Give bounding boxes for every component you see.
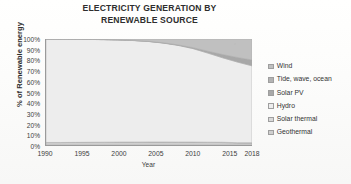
chart-title-line-1: ELECTRICITY GENERATION BY: [42, 3, 257, 15]
legend-item[interactable]: Wind: [268, 60, 350, 73]
legend-item-label: Solar thermal: [277, 116, 317, 123]
x-tick-label: 2010: [185, 150, 200, 157]
legend-item[interactable]: Solar PV: [268, 86, 350, 99]
chart-title-line-2: RENEWABLE SOURCE: [42, 15, 257, 27]
legend-item-label: Solar PV: [277, 90, 304, 97]
chart-legend: WindTide, wave, oceanSolar PVHydroSolar …: [268, 60, 350, 139]
legend-swatch-icon: [268, 117, 274, 123]
legend-item[interactable]: Geothermal: [268, 126, 350, 139]
y-tick-label: 20%: [27, 121, 40, 128]
x-tick-label: 2005: [148, 150, 163, 157]
y-tick-label: 50%: [27, 89, 40, 96]
legend-item-label: Wind: [277, 63, 293, 70]
y-axis-tick-labels: 0%10%20%30%40%50%60%70%80%90%100%: [0, 39, 43, 146]
chart-figure: ELECTRICITY GENERATION BY RENEWABLE SOUR…: [0, 0, 351, 184]
legend-item-label: Tide, wave, ocean: [277, 76, 332, 83]
y-tick-label: 60%: [27, 78, 40, 85]
legend-swatch-icon: [268, 90, 274, 96]
legend-swatch-icon: [268, 64, 274, 70]
y-tick-label: 70%: [27, 68, 40, 75]
legend-item[interactable]: Tide, wave, ocean: [268, 73, 350, 86]
legend-item[interactable]: Solar thermal: [268, 113, 350, 126]
stacked-area-series: [46, 39, 252, 145]
x-tick-label: 2018: [244, 150, 259, 157]
x-tick-label: 1990: [37, 150, 52, 157]
legend-swatch-icon: [268, 77, 274, 83]
legend-item[interactable]: Hydro: [268, 100, 350, 113]
plot-area-wrapper: [45, 39, 252, 146]
legend-item-label: Geothermal: [277, 129, 313, 136]
legend-swatch-icon: [268, 103, 274, 109]
y-tick-label: 30%: [27, 110, 40, 117]
legend-swatch-icon: [268, 130, 274, 136]
y-tick-label: 90%: [27, 46, 40, 53]
x-axis-title: Year: [45, 161, 252, 168]
x-tick-label: 2015: [222, 150, 237, 157]
x-tick-label: 2000: [111, 150, 126, 157]
plot-area: [45, 39, 252, 146]
y-tick-label: 80%: [27, 57, 40, 64]
y-tick-label: 0%: [30, 143, 40, 150]
y-tick-label: 10%: [27, 132, 40, 139]
y-tick-label: 100%: [23, 36, 40, 43]
x-tick-label: 1995: [74, 150, 89, 157]
y-tick-label: 40%: [27, 100, 40, 107]
chart-title: ELECTRICITY GENERATION BY RENEWABLE SOUR…: [42, 3, 257, 26]
legend-item-label: Hydro: [277, 103, 295, 110]
